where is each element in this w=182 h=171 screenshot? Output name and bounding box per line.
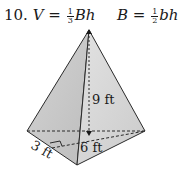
height-label: 9 ft	[92, 92, 115, 107]
apex-marker	[86, 29, 92, 34]
base-height-label: 6 ft	[80, 140, 103, 155]
pyramid-figure: 9 ft 6 ft 3 ft	[0, 0, 182, 171]
